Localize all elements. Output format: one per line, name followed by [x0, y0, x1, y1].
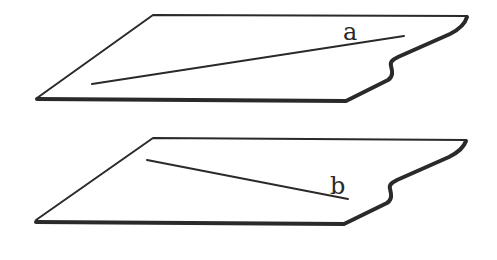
sheet-top: a [37, 15, 467, 101]
sheet-bottom: b [36, 138, 466, 224]
diagram-svg: a b [0, 0, 497, 260]
label-b: b [330, 172, 345, 200]
line-b [147, 160, 348, 199]
sheet-bottom-front-edge [36, 141, 466, 224]
label-a: a [343, 18, 357, 46]
diagram-canvas: a b [0, 0, 497, 260]
